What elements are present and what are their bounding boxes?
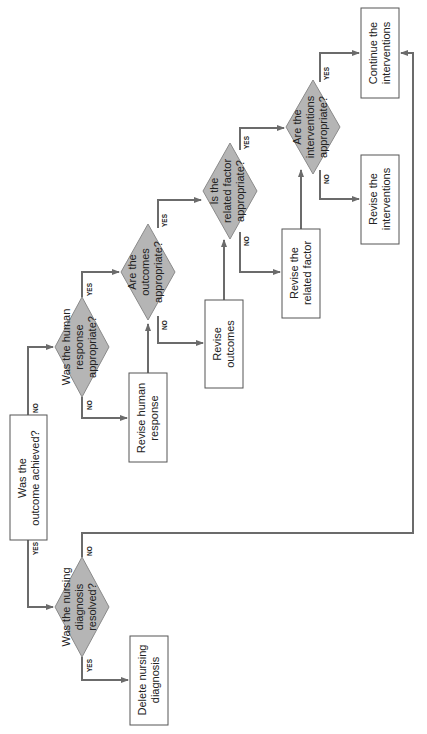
- node-text: Delete nursing: [136, 645, 148, 716]
- node-start: Was the outcome achieved?: [10, 415, 47, 540]
- label-yes: YES: [243, 135, 250, 149]
- node-text: appropriate?: [234, 160, 246, 222]
- node-text: Was the: [16, 458, 28, 498]
- node-continue: Continue the interventions: [361, 8, 399, 98]
- node-text: interventions: [304, 95, 316, 158]
- node-delete: Delete nursing diagnosis: [130, 636, 168, 725]
- node-text: related factor: [221, 159, 233, 224]
- node-text: Revise the: [367, 173, 379, 225]
- decision-human: Was the human response appropriate?: [55, 297, 109, 397]
- node-text: Are the: [126, 254, 138, 289]
- node-revise-human: Revise human response: [129, 373, 167, 462]
- node-text: interventions: [380, 21, 392, 84]
- node-text: related factor: [301, 241, 313, 306]
- node-revise-interventions: Revise the interventions: [361, 155, 399, 244]
- node-text: appropriate?: [317, 96, 329, 158]
- node-text: outcomes: [139, 248, 151, 296]
- node-text: diagnosis: [149, 656, 161, 703]
- node-text: Was the nursing: [60, 567, 72, 646]
- node-text: appropriate?: [86, 316, 98, 378]
- flowchart: YES NO YES NO YES NO YES NO YES NO YES N…: [0, 0, 427, 734]
- label-yes: YES: [32, 541, 39, 555]
- node-text: Was the human: [60, 309, 72, 386]
- node-text: response: [148, 395, 160, 440]
- node-text: outcomes: [224, 320, 236, 368]
- label-yes: YES: [323, 66, 330, 80]
- node-text: Revise human: [135, 383, 147, 453]
- label-no: NO: [86, 546, 93, 556]
- node-text: resolved?: [86, 583, 98, 631]
- node-text: Continue the: [367, 22, 379, 84]
- node-revise-factor: Revise the related factor: [282, 229, 320, 318]
- label-no: NO: [243, 236, 250, 246]
- node-text: appropriate?: [152, 241, 164, 303]
- node-revise-outcomes: Revise outcomes: [205, 300, 243, 388]
- node-text: interventions: [380, 167, 392, 230]
- node-text: Are the: [291, 109, 303, 144]
- decision-factor: Is the related factor appropriate?: [203, 143, 257, 239]
- node-text: diagnosis: [73, 583, 85, 630]
- node-text: outcome achieved?: [29, 430, 41, 525]
- label-no: NO: [86, 400, 93, 410]
- label-yes: YES: [86, 658, 93, 672]
- node-text: Is the: [208, 178, 220, 205]
- label-no: NO: [323, 174, 330, 184]
- node-text: response: [73, 324, 85, 369]
- node-text: Revise the: [288, 247, 300, 299]
- decision-diagnosis: Was the nursing diagnosis resolved?: [55, 557, 109, 657]
- decision-outcomes: Are the outcomes appropriate?: [121, 224, 175, 320]
- label-no: NO: [32, 403, 39, 413]
- decision-interventions: Are the interventions appropriate?: [286, 80, 340, 174]
- label-yes: YES: [86, 282, 93, 296]
- label-yes: YES: [161, 213, 168, 227]
- node-text: Revise: [211, 327, 223, 361]
- label-no: NO: [161, 320, 168, 330]
